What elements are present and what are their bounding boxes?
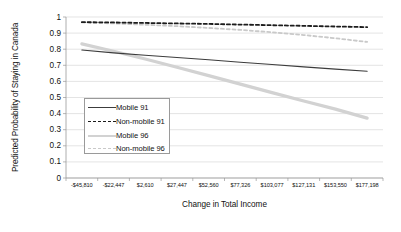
legend-item-mobile-96: Mobile 96 (85, 128, 169, 142)
chart-figure: Predicted Probability of Staying in Cana… (0, 0, 401, 232)
y-tick-label: 0.8 (39, 45, 61, 54)
y-tick-label: 0.6 (39, 77, 61, 86)
legend-swatch-mobile-91-icon (88, 101, 116, 113)
legend-label-mobile-91: Mobile 91 (116, 103, 148, 112)
legend-swatch-non-mobile-91-icon (88, 115, 116, 127)
legend-label-mobile-96: Mobile 96 (116, 131, 148, 140)
y-tick-label: 0.2 (39, 141, 61, 150)
y-tick-label: 0.9 (39, 29, 61, 38)
legend: Mobile 91 Non-mobile 91 Mobile 96 Non-mo… (84, 98, 170, 154)
y-tick-label: 0.4 (39, 109, 61, 118)
legend-swatch-mobile-96-icon (88, 129, 116, 141)
x-axis-title: Change in Total Income (66, 200, 383, 209)
y-tick-label: 1 (39, 13, 61, 22)
y-tick-label: 0.3 (39, 125, 61, 134)
y-tick-label: 0.7 (39, 61, 61, 70)
legend-label-non-mobile-96: Non-mobile 96 (116, 144, 165, 153)
legend-item-non-mobile-96: Non-mobile 96 (85, 141, 169, 155)
legend-swatch-non-mobile-96-icon (88, 142, 116, 154)
legend-item-non-mobile-91: Non-mobile 91 (85, 114, 169, 128)
legend-item-mobile-91: Mobile 91 (85, 100, 169, 114)
legend-label-non-mobile-91: Non-mobile 91 (116, 117, 165, 126)
x-tick-label: $177,198 (343, 182, 391, 189)
y-tick-label: 0.5 (39, 93, 61, 102)
y-tick-label: 0.1 (39, 157, 61, 166)
